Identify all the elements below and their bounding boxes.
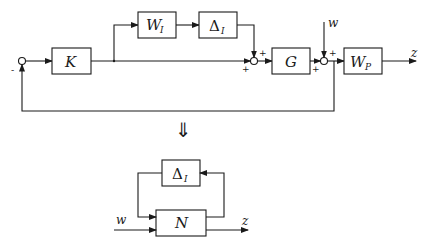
sign-plus: + (312, 64, 320, 74)
block-diagram: - K W I Δ I + + G w + + (0, 0, 428, 246)
sign-plus: + (329, 48, 337, 58)
summing-junction-3 (321, 58, 328, 65)
svg-text:I: I (159, 25, 164, 35)
block-N: N (156, 210, 206, 236)
svg-text:I: I (220, 26, 225, 36)
svg-text:Δ: Δ (172, 165, 183, 183)
svg-text:K: K (64, 53, 77, 71)
wire-branch-to-WI (114, 25, 138, 61)
signal-w: w (328, 16, 339, 30)
signal-w-bottom: w (116, 213, 127, 227)
block-DeltaI-lft: Δ I (162, 160, 200, 186)
svg-text:N: N (174, 214, 189, 232)
svg-text:P: P (364, 62, 372, 72)
block-G: G (272, 48, 310, 74)
signal-z-bottom: z (241, 214, 249, 228)
block-WP: W P (344, 48, 382, 74)
svg-text:I: I (183, 174, 188, 184)
sign-minus: - (11, 65, 14, 75)
block-DeltaI: Δ I (199, 12, 237, 38)
signal-z: z (410, 46, 418, 60)
block-K: K (52, 48, 91, 74)
sign-plus: + (242, 64, 250, 74)
sign-plus: + (259, 48, 267, 58)
summing-junction-2 (251, 58, 258, 65)
svg-text:G: G (285, 53, 297, 71)
block-WI: W I (138, 12, 176, 38)
double-down-arrow: ⇓ (175, 118, 192, 142)
summing-junction-1 (19, 58, 26, 65)
wire-DeltaI-to-sum2 (237, 25, 254, 58)
svg-text:Δ: Δ (209, 17, 220, 35)
